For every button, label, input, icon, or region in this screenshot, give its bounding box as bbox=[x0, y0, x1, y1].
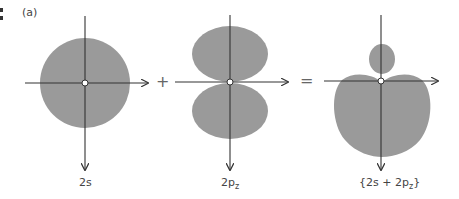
label-2s: 2s bbox=[79, 176, 92, 189]
nucleus-dot bbox=[227, 79, 233, 85]
label-hybrid-end: } bbox=[413, 176, 420, 189]
orbital-hybridization-figure: (a) + = bbox=[0, 0, 459, 199]
label-2pz-sub: z bbox=[235, 182, 239, 191]
label-hybrid: {2s + 2pz} bbox=[359, 176, 420, 191]
hybrid-large-lobe bbox=[334, 74, 430, 157]
equals-operator: = bbox=[300, 71, 313, 90]
label-2pz-main: 2p bbox=[221, 176, 235, 189]
plus-operator: + bbox=[156, 72, 169, 91]
orbital-drawing bbox=[0, 0, 459, 199]
orbital-hybrid bbox=[324, 15, 438, 170]
nucleus-dot bbox=[378, 78, 384, 84]
label-2pz: 2pz bbox=[221, 176, 239, 191]
orbital-2s bbox=[25, 16, 148, 170]
label-hybrid-main: {2s + 2p bbox=[359, 176, 409, 189]
orbital-2pz bbox=[175, 15, 288, 170]
nucleus-dot bbox=[82, 80, 88, 86]
hybrid-small-lobe bbox=[369, 44, 395, 74]
